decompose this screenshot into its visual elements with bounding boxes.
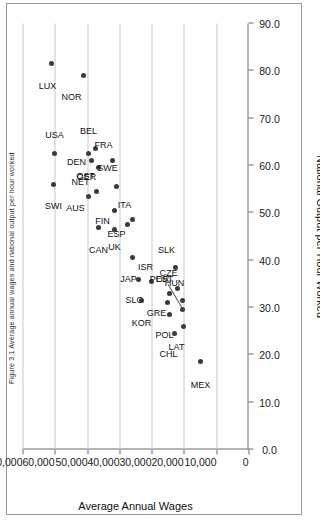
x-axis-tick (248, 212, 253, 213)
data-point (129, 255, 134, 260)
data-point-label: DEN (67, 157, 86, 167)
x-axis-tick (248, 449, 253, 450)
data-point (81, 73, 86, 78)
gridline (216, 24, 217, 450)
data-point-label: USA (45, 130, 64, 140)
x-axis-tick-label: 20.0 (259, 349, 279, 361)
gridline (22, 24, 23, 450)
x-axis-tick-label: 0.0 (262, 444, 277, 456)
y-axis-tick-label: 50,000 (54, 456, 86, 468)
data-point-label: EST (155, 274, 173, 284)
y-axis-tick (54, 450, 55, 455)
x-axis-tick-label: 80.0 (259, 65, 279, 77)
data-point-label: BEL (79, 126, 96, 136)
y-axis-tick-label: 40,000 (87, 456, 119, 468)
x-axis-tick (248, 401, 253, 402)
x-axis-tick-label: 90.0 (259, 18, 279, 30)
y-axis-tick-label: 70,000 (0, 456, 22, 468)
data-point (112, 208, 117, 213)
data-point-label: SWE (96, 164, 117, 174)
data-point-label: FRA (94, 140, 112, 150)
data-point-label: FIN (95, 216, 110, 226)
data-point-label: LAT (169, 342, 185, 352)
data-point-label: POL (155, 331, 173, 341)
data-point (86, 151, 91, 156)
data-point (165, 300, 170, 305)
data-point (139, 298, 144, 303)
data-point-label: MEX (190, 379, 210, 389)
x-axis-tick (248, 165, 253, 166)
data-point (166, 291, 171, 296)
y-axis-tick-label: 0 (242, 456, 248, 468)
x-axis-tick (248, 354, 253, 355)
x-axis-tick-label: 70.0 (259, 112, 279, 124)
y-axis-tick (22, 450, 23, 455)
data-point-label: CAN (88, 245, 107, 255)
y-axis-tick-label: 20,000 (151, 456, 183, 468)
x-axis-tick (248, 307, 253, 308)
y-axis-tick (151, 450, 152, 455)
data-point (52, 151, 57, 156)
figure-frame: Figure 3.1 Average annual wages and nati… (6, 3, 302, 515)
gridline (87, 24, 88, 450)
data-point (179, 298, 184, 303)
y-axis-tick (183, 450, 184, 455)
y-axis-tick-label: 10,000 (184, 456, 216, 468)
y-axis-tick (119, 450, 120, 455)
data-point (197, 359, 202, 364)
y-axis-tick (216, 450, 217, 455)
y-axis-tick (248, 450, 249, 455)
data-point (129, 217, 134, 222)
data-point (49, 61, 54, 66)
data-point-label: ITA (117, 200, 130, 210)
data-point-label: NOR (61, 92, 81, 102)
data-point (113, 184, 118, 189)
data-point-label: SLK (158, 245, 175, 255)
x-axis-line (247, 24, 248, 450)
data-point-label: ESP (107, 230, 125, 240)
data-point (171, 331, 176, 336)
data-point-label: LUX (38, 81, 56, 91)
y-axis-tick (87, 450, 88, 455)
data-point-label: AUS (66, 203, 85, 213)
x-axis-tick (248, 117, 253, 118)
y-axis-line (22, 449, 248, 450)
data-point-label: ISR (138, 262, 153, 272)
data-point (94, 189, 99, 194)
data-point-label: OST (76, 171, 95, 181)
data-point-label: UK (108, 242, 121, 252)
gridline (151, 24, 152, 450)
data-point (166, 312, 171, 317)
x-axis-tick (248, 259, 253, 260)
data-point-label: KOR (132, 318, 152, 328)
data-point (181, 324, 186, 329)
x-axis-tick-label: 30.0 (259, 302, 279, 314)
scatter-plot: National Output per Hour Worked Average … (22, 24, 248, 450)
data-point (50, 182, 55, 187)
gridline (183, 24, 184, 450)
data-point (136, 277, 141, 282)
y-axis-tick-label: 60,000 (22, 456, 54, 468)
x-axis-tick-label: 40.0 (259, 254, 279, 266)
data-point (124, 222, 129, 227)
data-point-label: SWI (44, 201, 61, 211)
data-point-label: GRE (147, 308, 167, 318)
data-point (86, 194, 91, 199)
chart-stage: National Output per Hour Worked Average … (8, 7, 300, 512)
x-axis-tick-label: 10.0 (259, 396, 279, 408)
data-point-label: JAP (120, 275, 137, 285)
y-axis-tick-label: 30,000 (119, 456, 151, 468)
x-axis-tick-label: 50.0 (259, 207, 279, 219)
data-point (89, 158, 94, 163)
x-axis-tick-label: 60.0 (259, 160, 279, 172)
x-axis-tick (248, 23, 253, 24)
y-axis-title: Average Annual Wages (78, 500, 192, 512)
x-axis-tick (248, 70, 253, 71)
